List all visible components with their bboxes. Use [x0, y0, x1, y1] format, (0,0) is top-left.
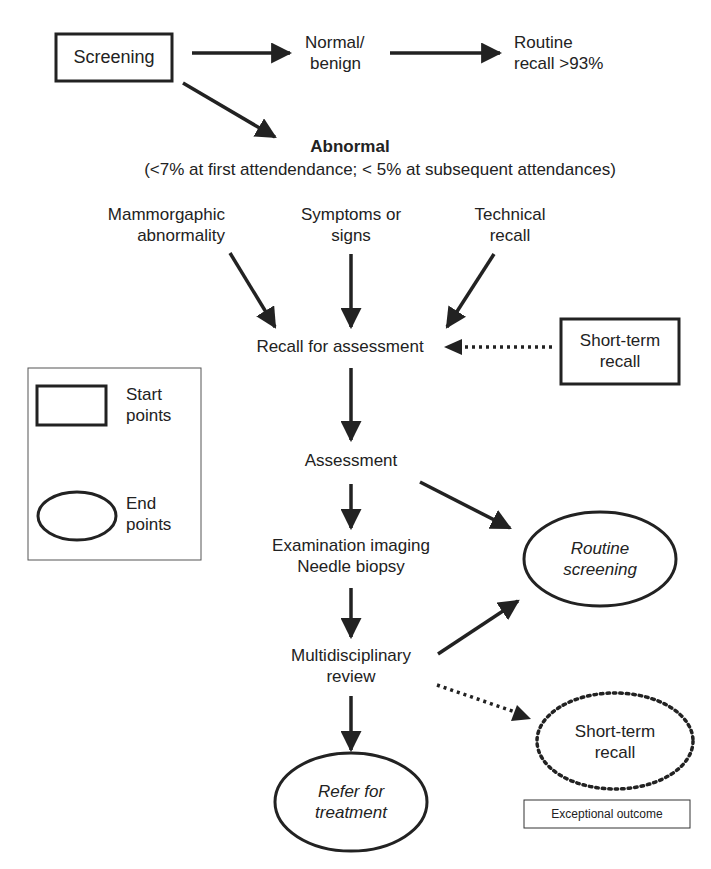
legend-start-label: Start points	[126, 384, 171, 426]
arrow-mammographic-recall	[230, 253, 275, 327]
exceptional-outcome-label: Exceptional outcome	[524, 807, 690, 821]
arrow-mdt-shortterm-dotted	[437, 685, 515, 712]
arrow-assessment-routine	[420, 482, 510, 528]
exam-imaging-line-2: Needle biopsy	[241, 556, 461, 577]
legend-box	[28, 368, 201, 560]
symptoms-label: Symptoms or signs	[271, 204, 431, 246]
normal-benign-label: Normal/ benign	[305, 32, 365, 74]
arrowhead-mdt-shortterm	[511, 705, 531, 721]
short-term-recall-start-line-2: recall	[561, 351, 679, 372]
normal-benign-line-2: benign	[305, 53, 365, 74]
routine-screening-line-1: Routine	[524, 538, 676, 559]
legend-end-line-2: points	[126, 514, 171, 535]
mammographic-line-2: abnormality	[60, 225, 225, 246]
arrow-screening-abnormal	[183, 83, 275, 137]
legend-end-line-1: End	[126, 493, 171, 514]
recall-for-assessment-label: Recall for assessment	[230, 336, 450, 357]
screening-label: Screening	[56, 47, 172, 68]
technical-line-1: Technical	[455, 204, 565, 225]
short-term-recall-start-line-1: Short-term	[561, 330, 679, 351]
mdt-review-line-1: Multidisciplinary	[261, 645, 441, 666]
legend-end-label: End points	[126, 493, 171, 535]
legend-start-line-1: Start	[126, 384, 171, 405]
symptoms-line-2: signs	[271, 225, 431, 246]
symptoms-line-1: Symptoms or	[271, 204, 431, 225]
technical-label: Technical recall	[455, 204, 565, 246]
routine-recall-label: Routine recall >93%	[514, 32, 603, 74]
mdt-review-label: Multidisciplinary review	[261, 645, 441, 687]
arrow-mdt-routine	[438, 601, 518, 654]
refer-treatment-label: Refer for treatment	[275, 781, 427, 823]
short-term-recall-end-label: Short-term recall	[537, 721, 693, 763]
exam-imaging-line-1: Examination imaging	[241, 535, 461, 556]
routine-recall-line-2: recall >93%	[514, 53, 603, 74]
short-term-recall-end-line-1: Short-term	[537, 721, 693, 742]
abnormal-title: Abnormal	[290, 136, 410, 157]
mdt-review-line-2: review	[261, 666, 441, 687]
technical-line-2: recall	[455, 225, 565, 246]
short-term-recall-start-label: Short-term recall	[561, 330, 679, 372]
legend-start-line-2: points	[126, 405, 171, 426]
legend-start-swatch	[37, 386, 106, 425]
routine-screening-label: Routine screening	[524, 538, 676, 580]
legend-end-swatch	[38, 492, 116, 540]
arrow-technical-recall	[447, 254, 494, 327]
normal-benign-line-1: Normal/	[305, 32, 365, 53]
mammographic-line-1: Mammorgaphic	[60, 204, 225, 225]
assessment-label: Assessment	[271, 450, 431, 471]
short-term-recall-end-line-2: recall	[537, 742, 693, 763]
refer-treatment-line-1: Refer for	[275, 781, 427, 802]
routine-screening-line-2: screening	[524, 559, 676, 580]
refer-treatment-line-2: treatment	[275, 802, 427, 823]
exam-imaging-label: Examination imaging Needle biopsy	[241, 535, 461, 577]
routine-recall-line-1: Routine	[514, 32, 603, 53]
mammographic-label: Mammorgaphic abnormality	[60, 204, 225, 246]
abnormal-subtitle: (<7% at first attendendance; < 5% at sub…	[80, 159, 680, 180]
